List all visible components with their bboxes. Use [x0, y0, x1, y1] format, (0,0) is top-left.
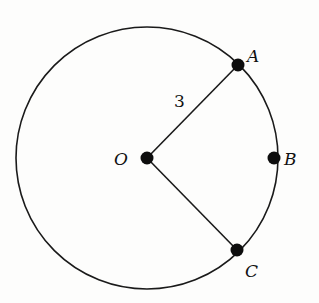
- point-A: [232, 59, 245, 72]
- label-B: B: [283, 149, 297, 169]
- point-O: [141, 152, 154, 165]
- label-O: O: [114, 149, 128, 169]
- label-A: A: [245, 46, 259, 66]
- radius-length-label: 3: [174, 91, 185, 111]
- point-B: [268, 152, 281, 165]
- diagram-canvas: O A B C 3: [0, 0, 319, 303]
- label-C: C: [245, 261, 258, 281]
- circle-diagram: O A B C 3: [0, 0, 319, 303]
- point-C: [231, 244, 244, 257]
- segment-OC: [147, 158, 237, 250]
- segment-OA: [147, 65, 238, 158]
